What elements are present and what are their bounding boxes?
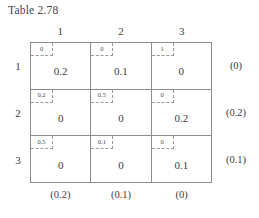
cost-box-r2c2: 0.5: [91, 90, 113, 103]
allocation-r3c2: 0: [91, 149, 150, 182]
allocation-r1c3: 0: [152, 56, 211, 89]
allocation-r1c1: 0.2: [31, 56, 90, 89]
row-header-column: 1 2 3: [8, 42, 28, 183]
column-margin-3: (0): [151, 187, 212, 203]
row-header-3: 3: [8, 136, 28, 183]
column-header-row: 1 2 3: [30, 24, 212, 39]
table-row: 0.5 0 0.1 0 0 0.1: [31, 136, 211, 182]
cost-box-r1c2: 0: [91, 43, 113, 56]
column-margin-1: (0.2): [30, 187, 91, 203]
allocation-r2c3: 0.2: [152, 103, 211, 136]
column-header-3: 3: [151, 24, 212, 39]
row-header-2: 2: [8, 89, 28, 136]
cell-r1c2: 0 0.1: [91, 43, 151, 89]
allocation-r3c3: 0.1: [152, 149, 211, 182]
allocation-r3c1: 0: [31, 149, 90, 182]
allocation-r2c2: 0: [91, 103, 150, 136]
transportation-matrix-figure: 1 2 3 1 2 3 0 0.2 0 0.1 1 0 0.2 0: [0, 0, 259, 218]
cell-r1c1: 0 0.2: [31, 43, 91, 89]
cost-box-r3c3: 0: [152, 136, 174, 149]
cell-r3c2: 0.1 0: [91, 136, 151, 182]
cost-box-r3c2: 0.1: [91, 136, 113, 149]
column-margin-row: (0.2) (0.1) (0): [30, 187, 212, 203]
row-margin-1: (0): [216, 42, 256, 89]
column-header-2: 2: [91, 24, 152, 39]
cost-box-r1c1: 0: [31, 43, 53, 56]
cost-box-r2c3: 0: [152, 90, 174, 103]
allocation-r2c1: 0: [31, 103, 90, 136]
column-header-1: 1: [30, 24, 91, 39]
table-row: 0 0.2 0 0.1 1 0: [31, 43, 211, 90]
cell-r2c3: 0 0.2: [152, 90, 211, 136]
column-margin-2: (0.1): [91, 187, 152, 203]
cell-r2c1: 0.2 0: [31, 90, 91, 136]
cell-r1c3: 1 0: [152, 43, 211, 89]
allocation-r1c2: 0.1: [91, 56, 150, 89]
row-header-1: 1: [8, 42, 28, 89]
row-margin-2: (0.2): [216, 89, 256, 136]
cost-box-r1c3: 1: [152, 43, 174, 56]
cell-r2c2: 0.5 0: [91, 90, 151, 136]
cell-r3c3: 0 0.1: [152, 136, 211, 182]
cost-box-r3c1: 0.5: [31, 136, 53, 149]
table-row: 0.2 0 0.5 0 0 0.2: [31, 90, 211, 137]
row-margin-column: (0) (0.2) (0.1): [216, 42, 256, 183]
cell-r3c1: 0.5 0: [31, 136, 91, 182]
row-margin-3: (0.1): [216, 136, 256, 183]
matrix-grid: 0 0.2 0 0.1 1 0 0.2 0 0.5 0 0 0: [30, 42, 212, 183]
cost-box-r2c1: 0.2: [31, 90, 53, 103]
